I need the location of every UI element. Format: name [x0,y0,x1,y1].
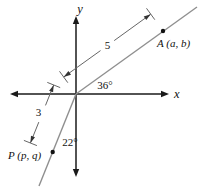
angle-36-label: 36° [97,79,112,91]
dim3-outer-tick [24,140,37,145]
point-A-dot [161,29,165,33]
x-axis-left-arrow-icon [10,91,18,97]
angle-22-label: 22° [62,136,77,148]
x-axis-right-arrow-icon [161,91,169,97]
y-axis-bottom-arrow-icon [73,169,79,177]
length-3-label: 3 [36,106,42,118]
point-A-label: A (a, b) [156,37,190,50]
y-axis-label: y [75,2,83,16]
dim3-outer-arrow-icon [30,136,35,143]
dim3-origin-arrow-icon [49,85,54,92]
trig-diagram: x y A (a, b) P (p, q) 5 3 36° 22° [0,0,201,190]
diagram-svg: x y A (a, b) P (p, q) 5 3 36° 22° [0,0,201,190]
point-P-label: P (p, q) [7,149,41,162]
x-axis-label: x [173,87,180,101]
dim3-origin-tick [47,82,60,87]
y-axis-top-arrow-icon [73,16,79,24]
ray-through-A [76,7,197,94]
length-5-label: 5 [105,39,111,51]
dim5-origin-tick [60,71,68,82]
dim5-outer-arrow-icon [144,14,151,20]
point-P-dot [51,150,55,154]
